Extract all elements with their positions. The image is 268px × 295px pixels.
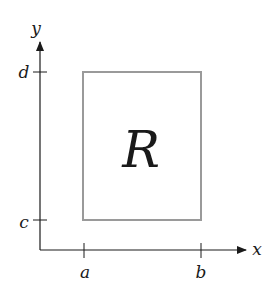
region-diagram: y x d c a b R bbox=[0, 0, 268, 295]
tick-label-a: a bbox=[80, 262, 90, 282]
y-axis-label: y bbox=[30, 18, 41, 38]
tick-label-c: c bbox=[19, 212, 29, 232]
x-axis-label: x bbox=[252, 239, 262, 259]
region-label: R bbox=[121, 121, 160, 179]
tick-label-d: d bbox=[19, 62, 30, 82]
tick-label-b: b bbox=[196, 262, 207, 282]
